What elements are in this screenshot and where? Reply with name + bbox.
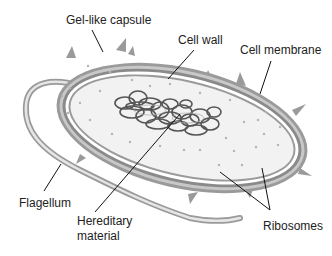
- label-hereditary-line2: material: [77, 229, 120, 243]
- label-hereditary-line1: Hereditary: [77, 214, 132, 228]
- bacterium-diagram: Gel-like capsule Cell wall Cell membrane…: [0, 0, 332, 256]
- bacterium-illustration: [0, 0, 332, 256]
- cell-body: [44, 41, 320, 216]
- label-cell-wall: Cell wall: [178, 33, 223, 47]
- label-flagellum: Flagellum: [19, 196, 71, 210]
- label-ribosomes: Ribosomes: [263, 219, 323, 233]
- label-gel-like-capsule: Gel-like capsule: [66, 13, 151, 27]
- label-cell-membrane: Cell membrane: [240, 43, 321, 57]
